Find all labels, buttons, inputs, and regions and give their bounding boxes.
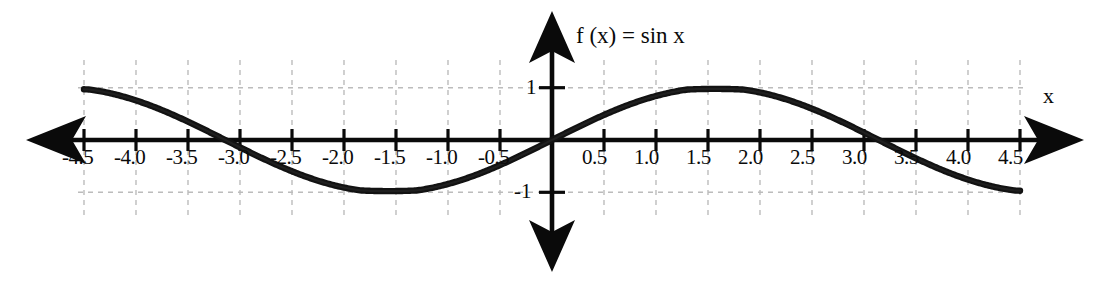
x-tick-label: 3.5 <box>894 145 919 170</box>
x-tick-label: -2.0 <box>322 145 353 170</box>
x-tick-label: -2.5 <box>270 145 301 170</box>
x-tick-label: 4.5 <box>998 145 1023 170</box>
x-tick-label: 2.0 <box>738 145 763 170</box>
function-title-label: f (x) = sin x <box>576 23 685 49</box>
x-tick-label: -1.0 <box>426 145 457 170</box>
x-axis-name-label: x <box>1043 83 1054 109</box>
x-tick-label: 1.5 <box>686 145 711 170</box>
x-tick-label: -4.5 <box>62 145 93 170</box>
x-tick-label: -3.5 <box>166 145 197 170</box>
x-tick-label: 3.0 <box>842 145 867 170</box>
x-tick-label: -0.5 <box>478 145 509 170</box>
x-tick-label: -3.0 <box>218 145 249 170</box>
sine-function-plot: -4.5-4.0-3.5-3.0-2.5-2.0-1.5-1.0-0.50.51… <box>0 0 1107 285</box>
y-tick-label: 1 <box>526 75 537 100</box>
x-tick-label: -1.5 <box>374 145 405 170</box>
y-tick-label: -1 <box>514 179 532 204</box>
x-tick-label: 0.5 <box>582 145 607 170</box>
plot-canvas <box>0 0 1107 285</box>
x-tick-label: 4.0 <box>946 145 971 170</box>
x-tick-label: -4.0 <box>114 145 145 170</box>
x-tick-label: 2.5 <box>790 145 815 170</box>
x-tick-label: 1.0 <box>634 145 659 170</box>
